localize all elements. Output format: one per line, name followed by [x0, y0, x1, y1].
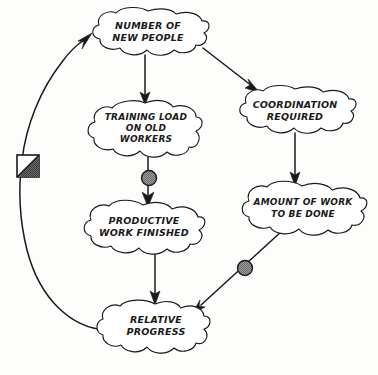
node-label-line-3: WORKERS [120, 134, 172, 144]
link-new-people-to-training-load [140, 55, 150, 105]
node-label-line-1: TRAINING LOAD [105, 112, 188, 122]
node-amount-of-work[interactable]: AMOUNT OF WORK TO BE DONE [242, 181, 367, 235]
node-label-line-2: ON OLD [126, 123, 167, 133]
node-label-line-2: WORK FINISHED [99, 227, 189, 238]
node-label-line-1: RELATIVE [130, 314, 182, 325]
delay-circle-work-marker[interactable] [238, 261, 253, 276]
node-label-line-2: PROGRESS [127, 326, 186, 337]
link-new-people-to-coordination [203, 48, 260, 93]
feedback-loop-path [20, 40, 106, 330]
delay-circle-icon [238, 261, 253, 276]
node-training-load[interactable]: TRAINING LOAD ON OLD WORKERS [88, 100, 202, 157]
node-label-line-2: REQUIRED [267, 111, 323, 122]
node-new-people[interactable]: NUMBER OF NEW PEOPLE [93, 7, 209, 55]
delay-circle-icon [142, 171, 157, 186]
node-label-line-1: COORDINATION [253, 99, 338, 110]
link-coordination-to-amount-of-work [290, 133, 300, 186]
node-relative-progress[interactable]: RELATIVE PROGRESS [97, 300, 210, 353]
link-productive-work-to-relative-progress [150, 252, 160, 305]
node-label-line-2: NEW PEOPLE [112, 32, 184, 43]
delay-circle-training-marker[interactable] [142, 171, 157, 186]
link-path [203, 48, 252, 86]
causal-loop-diagram: NUMBER OF NEW PEOPLE COORDINATION REQUIR… [0, 0, 378, 375]
arrowhead-into-new-people [78, 33, 92, 49]
node-label-line-1: NUMBER OF [115, 20, 181, 31]
diagram-canvas: NUMBER OF NEW PEOPLE COORDINATION REQUIR… [0, 0, 378, 375]
node-label-line-1: AMOUNT OF WORK [253, 197, 354, 207]
node-label-line-2: TO BE DONE [271, 209, 336, 219]
delay-square-marker[interactable] [17, 155, 39, 177]
node-label-line-1: PRODUCTIVE [109, 215, 180, 226]
link-amount-of-work-to-relative-progress [192, 231, 282, 314]
node-productive-work[interactable]: PRODUCTIVE WORK FINISHED [84, 200, 205, 254]
link-relative-progress-to-new-people [20, 33, 106, 330]
node-coordination[interactable]: COORDINATION REQUIRED [240, 85, 356, 133]
